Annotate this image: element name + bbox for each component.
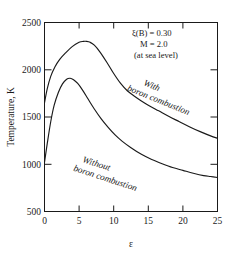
y-tick-label-1000: 1000 <box>22 160 41 170</box>
x-tick-label-10: 10 <box>109 216 119 226</box>
curve-label-without-boron: Without boron combustion <box>72 153 142 194</box>
y-tick-label-1500: 1500 <box>22 112 41 122</box>
chart-figure: 500 1000 1500 2000 2500 0 5 10 15 20 25 … <box>0 0 234 264</box>
x-tick-label-0: 0 <box>42 216 47 226</box>
curve-label-with-boron: With boron combustion <box>126 73 196 117</box>
temperature-epsilon-chart: 500 1000 1500 2000 2500 0 5 10 15 20 25 … <box>0 0 234 264</box>
x-tick-label-25: 25 <box>213 216 223 226</box>
y-tick-label-500: 500 <box>27 207 42 217</box>
x-tick-label-20: 20 <box>178 216 188 226</box>
x-tick-label-15: 15 <box>144 216 154 226</box>
x-tick-label-5: 5 <box>77 216 82 226</box>
annotation-altitude: (at sea level) <box>134 50 178 60</box>
y-tick-label-2500: 2500 <box>22 18 41 28</box>
y-axis-title: Temperature, K <box>6 87 16 147</box>
annotation-mach: M = 2.0 <box>140 39 168 49</box>
x-axis-title: ε <box>129 239 133 249</box>
y-tick-label-2000: 2000 <box>22 65 41 75</box>
annotation-xi-b: ξ(B) = 0.30 <box>132 28 171 38</box>
